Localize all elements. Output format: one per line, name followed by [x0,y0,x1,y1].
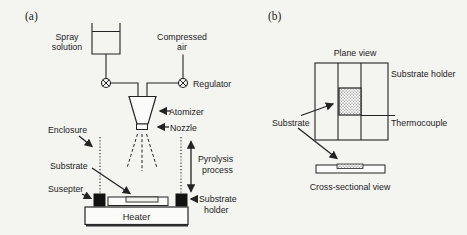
cross-section-film [337,164,363,169]
solution-pipe [111,83,139,96]
atomizer-funnel [129,97,156,125]
substrate-a-pointer-arrow [92,168,130,194]
cross-sectional-view-label: Cross-sectional view [310,182,391,192]
substrate-b-arrow-to-plane [301,104,333,116]
susepter-pointer-arrow [82,194,91,199]
spray-solution-label-line1: Spray [56,32,80,42]
susepter-label: Susepter [48,184,83,194]
air-pipe [147,83,179,96]
compressed-air-label-line2: air [177,42,187,52]
substrate-holder-b-label: Substrate holder [391,69,456,79]
compressed-air-label-line1: Compressed [157,32,207,42]
spray-cone [127,134,157,171]
enclosure-label: Enclosure [48,125,87,135]
regulator-valve-icon [179,79,188,88]
substrate-b-arrow-to-section [298,128,337,159]
nozzle-shape [137,124,148,130]
panel-b-tag: (b) [268,10,282,23]
substrate-stippled-area [339,88,361,115]
figure-canvas: (a) Spray solution Compressed air Regula… [0,0,467,235]
pyrolysis-label-line2: process [202,165,233,175]
heater-label: Heater [123,212,151,222]
regulator-label: Regulator [193,79,231,89]
thermocouple-label: Thermocouple [391,118,447,128]
enclosure-pointer-arrow [79,136,92,147]
panel-a-tag: (a) [25,10,38,23]
susceptor-block-left [94,194,105,206]
substrate-holder-a-label-line2: holder [204,205,229,215]
plane-view-label: Plane view [334,48,377,58]
susceptor-block-right [176,194,187,206]
solution-valve-icon [102,79,111,88]
atomizer-label: Atomizer [169,107,204,117]
spray-solution-beaker [92,23,120,54]
substrate-b-label: Substrate [272,118,310,128]
nozzle-label: Nozzle [170,123,197,133]
substrate-holder-a-label-line1: Substrate [199,194,237,204]
substrate-a-label: Substrate [50,161,88,171]
spray-solution-label-line2: solution [52,42,82,52]
spray-pyrolysis-figure: (a) Spray solution Compressed air Regula… [0,0,467,235]
substrate-chip [126,197,158,202]
pyrolysis-label-line1: Pyrolysis [198,154,234,164]
